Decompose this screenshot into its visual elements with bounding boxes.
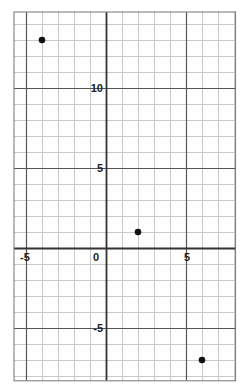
data-point xyxy=(199,357,206,364)
y-tick-label: 10 xyxy=(91,82,103,94)
data-point xyxy=(135,229,142,236)
data-point xyxy=(39,37,46,44)
coordinate-plane: -505105-5 xyxy=(0,0,244,391)
x-tick-label: 5 xyxy=(184,251,190,263)
x-tick-label: 0 xyxy=(93,251,99,263)
x-tick-label: -5 xyxy=(20,251,30,263)
y-tick-label: -5 xyxy=(93,322,103,334)
minor-grid xyxy=(14,12,236,381)
y-tick-label: 5 xyxy=(97,162,103,174)
